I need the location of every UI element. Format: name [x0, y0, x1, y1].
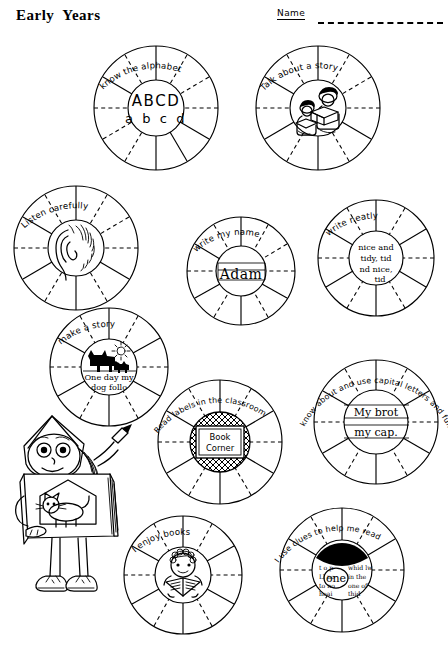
hub-handwriting: Adam	[219, 266, 262, 282]
hub-line-lower: a b c d	[125, 111, 187, 126]
book-corner-sign: Book Corner	[196, 426, 244, 458]
name-write-on-line[interactable]	[318, 22, 443, 24]
hub-handwriting-line-2: tidy, tid	[360, 253, 391, 263]
wheel-write-neatly[interactable]: write neatly nice and tidy, tid nd nice,…	[310, 192, 442, 324]
wheel-read-labels-in-the-classroom[interactable]: Read labels in the classroom Book Corner	[150, 372, 290, 512]
wheel-listen-carefully[interactable]: Listen carefully	[6, 178, 146, 318]
hub-handwriting-line-2: dog follo	[91, 382, 127, 392]
wheel-know-the-alphabet[interactable]: know the alphabet ABCD a b c d	[86, 38, 226, 178]
name-field-label: Name	[277, 8, 305, 20]
wheel-capital-letters-and-full-stops[interactable]: know about and use capital letters and f…	[306, 352, 446, 492]
hub-handwriting-line-1: nice and	[358, 242, 393, 252]
mascot-girl-holding-big-book	[8, 404, 140, 604]
passage-col2-line2: in the	[348, 573, 366, 580]
hub-handwriting-line-3: nd nice,	[359, 264, 392, 274]
hub-line-upper: ABCD	[132, 92, 181, 110]
sign-line-1: Book	[210, 432, 231, 442]
hub-handwriting-lines: One day my dog follo	[83, 371, 136, 392]
sign-line-2: Corner	[206, 443, 235, 453]
passage-col1-line1: t o p	[319, 564, 333, 572]
passage-col2-line3: one of	[348, 582, 368, 589]
passage-col2-line1: whid lw	[348, 564, 373, 571]
wheel-i-use-clues-to-help-me-read[interactable]: I use clues to help me read t o p Ll no …	[272, 500, 412, 640]
hub-handwriting-line-1: My brot	[354, 406, 399, 419]
hub-handwriting-line-2: my cap.	[354, 426, 397, 439]
header: Early Years Name	[0, 0, 448, 34]
hub-handwriting-line-4: tid	[374, 274, 385, 284]
wheel-write-my-name[interactable]: write my name Adam	[180, 210, 302, 332]
passage-col2-line4: thid	[348, 590, 360, 597]
hub-handwriting-line-1: One day my	[84, 372, 134, 382]
page-title: Early Years	[16, 7, 101, 24]
passage-col1-line4: hoai	[319, 590, 332, 597]
wheel-talk-about-a-story[interactable]: Talk about a story	[248, 38, 388, 178]
circled-word: one	[326, 572, 346, 585]
